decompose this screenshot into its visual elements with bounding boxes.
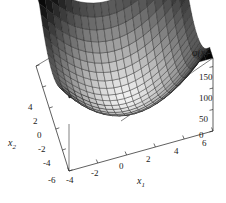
x-tick-6: 6 [202,139,207,148]
z-tick-150: 150 [199,73,213,82]
y-tick-m4: -4 [43,159,51,168]
z-tick-50: 50 [199,115,208,124]
surface-mesh [36,0,213,116]
x1-axis-label: x1 [137,176,145,189]
y-tick-m6: -6 [48,176,56,185]
y-tick-2: 2 [33,117,38,126]
y-tick-m2: -2 [38,145,46,154]
y-tick-0: 0 [37,131,42,140]
z-tick-100: 100 [199,94,213,103]
x-tick-0: 0 [119,162,124,171]
x-tick-m4: -4 [66,176,74,185]
x-tick-4: 4 [174,147,179,156]
x2-axis-label: x2 [8,138,16,151]
y-tick-4: 4 [28,103,33,112]
x-tick-2: 2 [146,155,151,164]
x-tick-m2: -2 [91,169,99,178]
z-axis-label: φ(x) [192,48,209,58]
surface-plot-figure: φ(x) 150 100 50 0 x2 4 2 0 -2 -4 -6 x1 -… [0,0,226,203]
plot-canvas [0,0,226,203]
